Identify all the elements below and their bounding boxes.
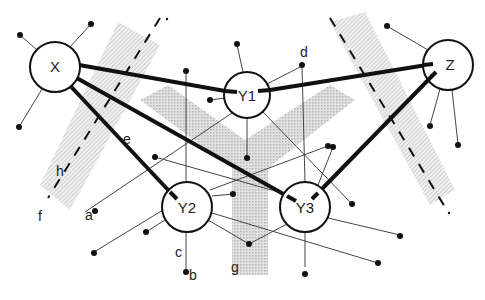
node-label-x: X (50, 58, 60, 75)
label-b: b (189, 267, 197, 283)
label-c: c (175, 244, 182, 260)
label-e: e (123, 131, 131, 147)
label-a: a (85, 207, 93, 223)
label-h: h (56, 163, 64, 179)
label-d: d (300, 44, 308, 60)
node-Z[interactable]: Z (423, 40, 473, 90)
node-Y1[interactable]: Y1 (224, 72, 270, 118)
node-label-y2: Y2 (178, 199, 196, 216)
node-label-z: Z (445, 56, 454, 73)
label-g: g (231, 259, 239, 275)
node-X[interactable]: X (30, 42, 80, 92)
label-f: f (38, 208, 42, 224)
node-Y2[interactable]: Y2 (162, 182, 212, 232)
node-label-y1: Y1 (238, 87, 256, 104)
node-Y3[interactable]: Y3 (280, 182, 330, 232)
node-label-y3: Y3 (296, 199, 314, 216)
network-diagram: X Y1 Z Y2 Y3 (0, 0, 485, 300)
